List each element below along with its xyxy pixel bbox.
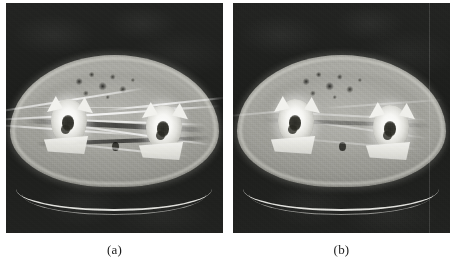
scanner-couch-a xyxy=(16,189,212,209)
patient-cross-section-b xyxy=(237,55,446,187)
subfigure-caption-b: (b) xyxy=(233,242,450,258)
scanner-couch-b xyxy=(243,189,439,209)
figure-root: (a) (b) xyxy=(0,0,460,274)
ct-panel-a xyxy=(6,3,223,233)
ct-image-b xyxy=(233,3,450,233)
metal-implant-left-a xyxy=(51,99,87,145)
metal-implant-right-b xyxy=(373,105,409,151)
ct-image-a xyxy=(6,3,223,233)
metal-implant-left-b xyxy=(278,99,314,145)
ct-panel-b xyxy=(233,3,450,233)
metal-implant-right-a xyxy=(146,105,182,151)
subfigure-caption-a: (a) xyxy=(6,242,223,258)
patient-cross-section-a xyxy=(10,55,219,187)
scan-artifact-line-b xyxy=(429,3,430,233)
